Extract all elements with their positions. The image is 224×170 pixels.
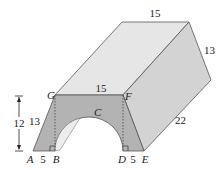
vertex-A: A bbox=[26, 153, 34, 165]
vertex-C: C bbox=[94, 106, 102, 118]
DE-label: 5 bbox=[130, 153, 136, 165]
height-label: 12 bbox=[14, 117, 25, 129]
top-back-label: 15 bbox=[150, 7, 162, 19]
vertex-B: B bbox=[53, 153, 60, 165]
arrow-up-icon bbox=[17, 97, 21, 102]
vertex-D: D bbox=[117, 153, 126, 165]
prism-diagram: 12 15 13 15 13 22 5 5 G F C A B D E bbox=[0, 0, 224, 170]
front-slant-label: 13 bbox=[29, 115, 41, 127]
vertex-G: G bbox=[47, 89, 55, 101]
AB-label: 5 bbox=[40, 153, 46, 165]
front-top-label: 15 bbox=[96, 82, 108, 94]
back-slant-label: 13 bbox=[204, 44, 216, 56]
arrow-down-icon bbox=[17, 145, 21, 150]
vertex-F: F bbox=[124, 90, 132, 102]
vertex-E: E bbox=[141, 153, 149, 165]
depth-label: 22 bbox=[175, 114, 186, 126]
